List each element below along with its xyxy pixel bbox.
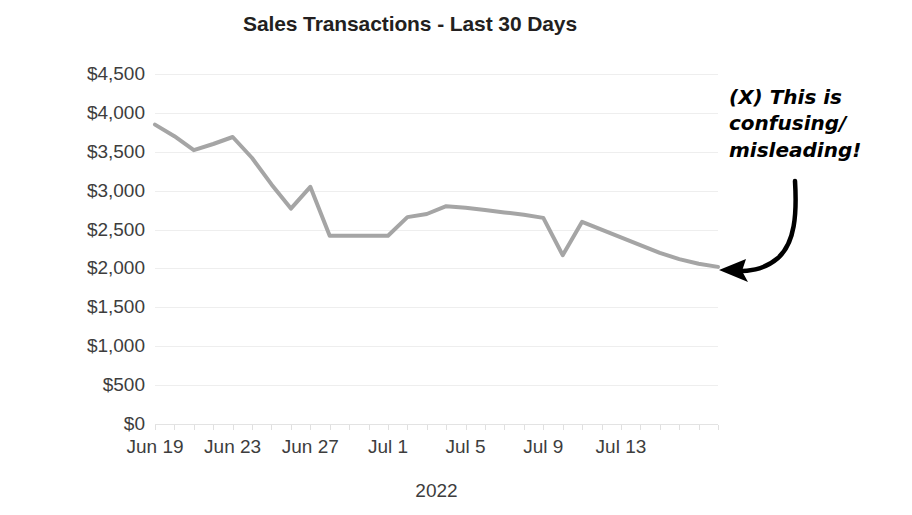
x-axis-tick-label: Jun 23 — [204, 436, 261, 458]
x-axis-tick — [446, 425, 447, 430]
x-axis-tick — [602, 425, 603, 430]
x-axis-tick — [640, 425, 641, 430]
x-axis-tick-label: Jun 19 — [126, 436, 183, 458]
y-axis-tick-label: $2,500 — [45, 219, 145, 241]
gridline — [155, 191, 718, 192]
gridline — [155, 385, 718, 386]
gridline — [155, 113, 718, 114]
x-axis-tick — [174, 425, 175, 430]
y-axis-tick-label: $2,000 — [45, 257, 145, 279]
x-axis-tick — [252, 425, 253, 430]
gridline — [155, 268, 718, 269]
x-axis-tick — [388, 425, 389, 430]
y-axis-tick-label: $1,500 — [45, 296, 145, 318]
x-axis-tick — [330, 425, 331, 430]
x-axis-tick — [621, 425, 622, 430]
x-axis-tick — [582, 425, 583, 430]
x-axis-ticks — [155, 425, 718, 430]
x-axis-tick — [271, 425, 272, 430]
x-axis-tick — [427, 425, 428, 430]
y-axis-tick-label: $4,500 — [45, 63, 145, 85]
x-axis-tick — [291, 425, 292, 430]
y-axis-tick-label: $1,000 — [45, 335, 145, 357]
y-axis-tick-label: $0 — [45, 413, 145, 435]
y-axis-tick-label: $3,000 — [45, 180, 145, 202]
x-axis-tick — [718, 425, 719, 430]
x-axis-tick — [349, 425, 350, 430]
x-axis-tick — [543, 425, 544, 430]
gridline — [155, 230, 718, 231]
x-axis-tick — [504, 425, 505, 430]
gridline — [155, 346, 718, 347]
gridline — [155, 152, 718, 153]
x-axis-tick — [407, 425, 408, 430]
y-axis-tick-label: $500 — [45, 374, 145, 396]
x-axis-tick-label: Jul 13 — [596, 436, 647, 458]
x-axis-tick — [524, 425, 525, 430]
chart-screenshot: Sales Transactions - Last 30 Days $4,500… — [0, 0, 912, 515]
annotation-callout-text: (X) This is confusing/ misleading! — [729, 84, 907, 163]
x-axis-tick-label: Jun 27 — [282, 436, 339, 458]
x-axis-tick-label: Jul 1 — [368, 436, 408, 458]
x-axis-tick — [155, 425, 156, 430]
x-axis-tick-label: Jul 5 — [446, 436, 486, 458]
x-axis-tick — [369, 425, 370, 430]
x-axis-tick-label: Jul 9 — [523, 436, 563, 458]
annotation-arrow-icon — [730, 181, 796, 271]
gridline — [155, 74, 718, 75]
x-axis-tick — [563, 425, 564, 430]
y-axis-tick-label: $3,500 — [45, 141, 145, 163]
x-axis-tick — [679, 425, 680, 430]
x-axis-tick — [213, 425, 214, 430]
x-axis-tick — [233, 425, 234, 430]
gridline — [155, 307, 718, 308]
x-axis-tick — [194, 425, 195, 430]
x-axis-title: 2022 — [155, 480, 718, 502]
x-axis-tick — [310, 425, 311, 430]
plot-area — [155, 74, 718, 424]
y-axis-tick-label: $4,000 — [45, 102, 145, 124]
x-axis-tick — [660, 425, 661, 430]
x-axis-tick — [485, 425, 486, 430]
x-axis-tick — [699, 425, 700, 430]
annotation-arrowhead-icon — [719, 259, 748, 282]
x-axis-tick — [466, 425, 467, 430]
